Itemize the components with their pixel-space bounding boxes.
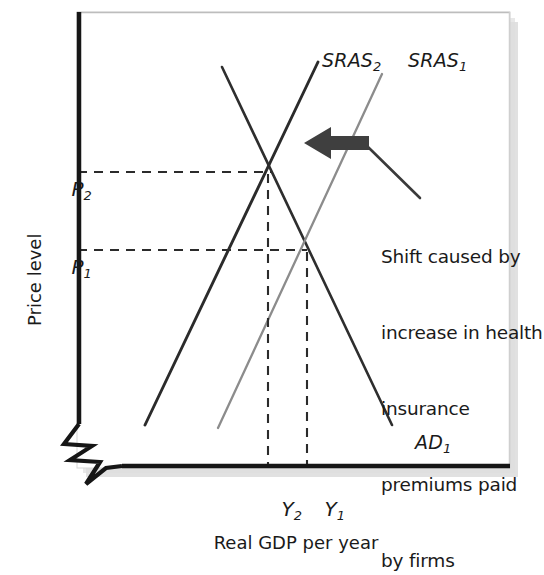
shift-annotation-text: Shift caused by increase in health insur… xyxy=(381,193,543,575)
annotation-line-2: increase in health xyxy=(381,320,543,345)
y-tick-p1-sub: 1 xyxy=(84,266,92,281)
y-tick-p1-base: P xyxy=(71,255,83,279)
curve-label-sras1-base: SRAS xyxy=(408,49,459,71)
annotation-line-5: by firms xyxy=(381,548,543,573)
curve-label-sras2: SRAS2 xyxy=(297,32,381,92)
x-axis-title: Real GDP per year xyxy=(196,534,396,552)
annotation-line-1: Shift caused by xyxy=(381,244,543,269)
x-tick-y2-base: Y xyxy=(281,497,293,521)
annotation-line-4: premiums paid xyxy=(381,472,543,497)
x-tick-y1-sub: 1 xyxy=(337,508,345,523)
y-axis-title: Price level xyxy=(26,234,44,326)
x-tick-y1-base: Y xyxy=(324,497,336,521)
y-tick-label-p1: P1 xyxy=(46,237,92,300)
curve-label-sras2-sub: 2 xyxy=(373,59,381,74)
y-tick-label-p2: P2 xyxy=(46,159,92,222)
annotation-line-3: insurance xyxy=(381,396,543,421)
curve-label-sras1: SRAS1 xyxy=(383,32,467,92)
curve-label-sras1-sub: 1 xyxy=(459,59,467,74)
y-tick-p2-base: P xyxy=(71,177,83,201)
curve-label-sras2-base: SRAS xyxy=(322,49,373,71)
y-tick-p2-sub: 2 xyxy=(84,188,92,203)
